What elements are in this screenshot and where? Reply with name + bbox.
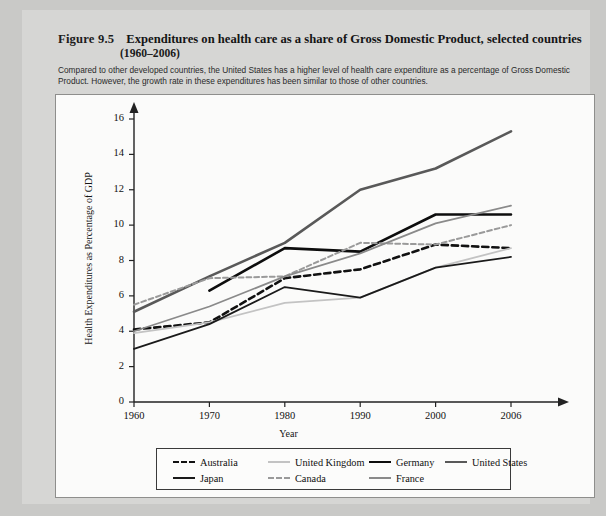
chart-legend: AustraliaUnited KingdomGermanyUnited Sta… [156, 448, 511, 490]
legend-item-canada[interactable]: Canada [268, 473, 326, 484]
x-tick-label: 2000 [416, 410, 456, 421]
legend-swatch-icon [173, 473, 195, 483]
y-tick-label: 6 [102, 289, 124, 300]
legend-label: United Kingdom [295, 457, 365, 468]
legend-label: France [396, 473, 424, 484]
legend-swatch-icon [173, 457, 195, 467]
x-tick-label: 1970 [189, 410, 229, 421]
y-tick-label: 4 [102, 324, 124, 335]
figure-label: Figure 9.5 [58, 32, 126, 47]
y-tick-label: 2 [102, 360, 124, 371]
legend-item-united-states[interactable]: United States [445, 457, 527, 468]
legend-swatch-icon [268, 473, 290, 483]
y-tick-label: 8 [102, 254, 124, 265]
series-line-france [134, 206, 511, 332]
legend-label: United States [472, 457, 527, 468]
legend-label: Japan [200, 473, 223, 484]
y-axis-title: Health Expenditures as Percentage of GDP [83, 118, 94, 398]
legend-swatch-icon [268, 457, 290, 467]
page-background: Figure 9.5 Expenditures on health care a… [0, 0, 606, 516]
legend-label: Australia [200, 457, 238, 468]
figure-header: Figure 9.5 Expenditures on health care a… [58, 32, 606, 60]
x-axis-title: Year [56, 428, 521, 439]
y-tick-label: 10 [102, 218, 124, 229]
legend-row: JapanCanadaFrance [165, 470, 504, 486]
legend-item-united-kingdom[interactable]: United Kingdom [268, 457, 365, 468]
legend-swatch-icon [445, 457, 467, 467]
x-tick-label: 1990 [340, 410, 380, 421]
figure-caption: Compared to other developed countries, t… [58, 65, 603, 88]
y-tick-label: 14 [102, 147, 124, 158]
legend-label: Canada [295, 473, 326, 484]
figure-subtitle: (1960–2006) [120, 47, 606, 60]
legend-swatch-icon [369, 473, 391, 483]
legend-row: AustraliaUnited KingdomGermanyUnited Sta… [165, 454, 504, 470]
legend-item-japan[interactable]: Japan [173, 473, 223, 484]
y-tick-label: 12 [102, 183, 124, 194]
legend-item-france[interactable]: France [369, 473, 424, 484]
x-tick-label: 1980 [265, 410, 305, 421]
series-line-japan [134, 257, 511, 349]
legend-label: Germany [396, 457, 434, 468]
x-tick-label: 1960 [114, 410, 154, 421]
y-tick-label: 0 [102, 395, 124, 406]
figure-title: Expenditures on health care as a share o… [126, 32, 581, 46]
legend-swatch-icon [369, 457, 391, 467]
figure-panel: Figure 9.5 Expenditures on health care a… [22, 10, 590, 504]
series-line-united-kingdom [134, 248, 511, 333]
x-tick-label: 2006 [491, 410, 531, 421]
legend-item-germany[interactable]: Germany [369, 457, 434, 468]
legend-item-australia[interactable]: Australia [173, 457, 238, 468]
y-tick-label: 16 [102, 112, 124, 123]
chart-container: 0246810121416196019701980199020002006Yea… [55, 94, 595, 498]
series-line-australia [134, 245, 511, 330]
